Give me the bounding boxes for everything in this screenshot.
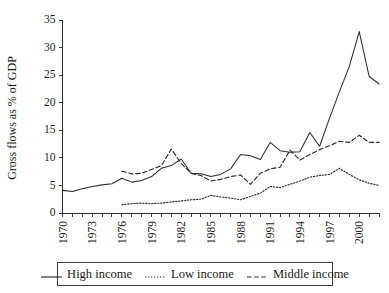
series-line-low-income <box>122 168 379 204</box>
legend-swatch-solid-icon <box>41 274 62 275</box>
x-tick-label: 1976 <box>116 221 128 244</box>
x-tick-label: 1970 <box>57 221 69 244</box>
series-line-high-income <box>63 32 380 192</box>
series-line-middle-income <box>122 135 379 184</box>
legend-label: Middle income <box>273 268 349 281</box>
legend-label: High income <box>67 268 132 281</box>
x-tick-label: 1994 <box>294 221 306 244</box>
x-tick-label: 1985 <box>205 221 217 244</box>
series-group <box>63 32 380 205</box>
y-axis-title-text: Gross flows as % of GDP <box>5 56 19 180</box>
x-tick-label: 1982 <box>175 221 187 244</box>
y-tick-label: 15 <box>44 123 56 135</box>
legend-item-middle-income[interactable]: Middle income <box>247 268 349 281</box>
y-tick-label: 25 <box>44 68 56 80</box>
x-tick-label: 1988 <box>235 221 247 244</box>
y-tick-label: 0 <box>50 206 56 218</box>
x-tick-label: 1997 <box>324 221 336 244</box>
y-tick-label: 30 <box>44 41 56 53</box>
legend-label: Low income <box>171 268 234 281</box>
x-tick-label: 2000 <box>353 221 365 244</box>
y-tick-label: 35 <box>44 13 56 25</box>
legend-swatch-dashed-icon <box>247 274 268 275</box>
y-tick-label: 10 <box>44 151 56 163</box>
line-chart: Gross flows as % of GDP 05101520253035 1… <box>0 0 389 293</box>
x-tick-label: 1991 <box>264 221 276 244</box>
legend-item-low-income[interactable]: Low income <box>145 268 234 281</box>
chart-container: Gross flows as % of GDP 05101520253035 1… <box>0 0 389 293</box>
y-tick-label: 20 <box>44 96 56 108</box>
legend-swatch-dotted-icon <box>145 274 166 275</box>
y-axis-ticks: 05101520253035 <box>44 13 63 218</box>
x-tick-label: 1979 <box>146 221 158 244</box>
x-tick-label: 1973 <box>86 221 98 244</box>
x-axis-ticks: 1970197319761979198219851988199119941997… <box>57 213 379 244</box>
legend-item-high-income[interactable]: High income <box>41 268 132 281</box>
chart-legend: High incomeLow incomeMiddle income <box>57 262 333 286</box>
y-axis-label: Gross flows as % of GDP <box>5 56 19 180</box>
y-tick-label: 5 <box>50 179 56 191</box>
